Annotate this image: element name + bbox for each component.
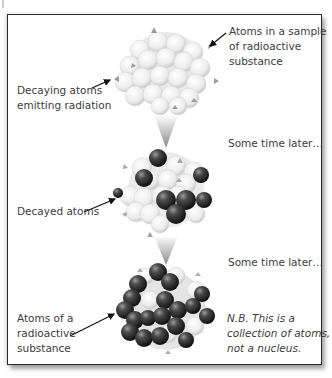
atom-cluster-stage-3 bbox=[116, 263, 215, 354]
label-decayed-atoms: Decayed atoms bbox=[17, 204, 99, 219]
atom-cluster-initial bbox=[114, 27, 219, 115]
label-decaying-atoms: Decaying atoms emitting radiation bbox=[17, 83, 111, 113]
time-label-1: Some time later… bbox=[228, 136, 323, 151]
note-collection-of-atoms: N.B. This is a collection of atoms, not … bbox=[227, 311, 330, 356]
pointer-arrow-atoms-of bbox=[70, 314, 114, 336]
pointer-arrow-sample bbox=[210, 33, 226, 46]
label-atoms-of-substance: Atoms of a radioactive substance bbox=[17, 311, 76, 356]
label-atoms-in-sample: Atoms in a sample of radioactive substan… bbox=[229, 24, 326, 69]
time-arrow-2 bbox=[154, 236, 178, 265]
time-label-2: Some time later… bbox=[228, 255, 323, 270]
time-arrow-1 bbox=[154, 115, 178, 148]
atom-cluster-stage-2 bbox=[113, 149, 212, 237]
